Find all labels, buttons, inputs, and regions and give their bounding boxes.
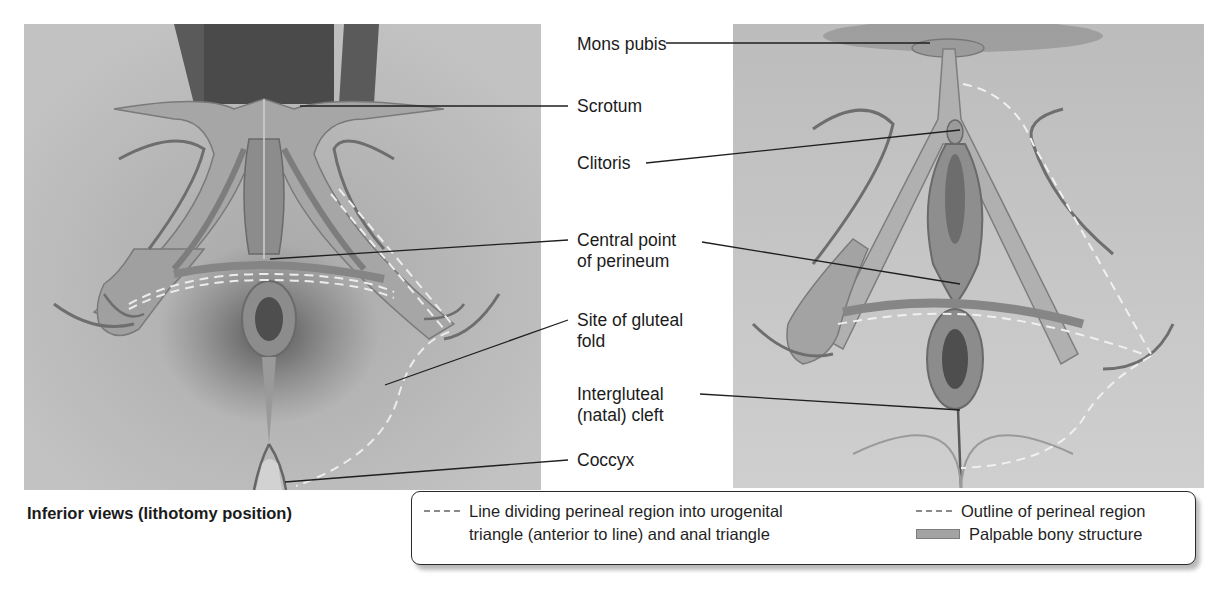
legend-item-dividing-line: Line dividing perineal region into uroge… xyxy=(424,501,783,521)
label-intergluteal-line2: (natal) cleft xyxy=(577,405,664,425)
label-mons-pubis: Mons pubis xyxy=(577,34,667,54)
male-anatomy-drawing xyxy=(24,24,541,490)
label-clitoris: Clitoris xyxy=(577,153,630,173)
clitoris-structure xyxy=(947,120,963,144)
legend-dividing-line-text2: triangle (anterior to line) and anal tri… xyxy=(469,524,770,544)
legend-item-bony: Palpable bony structure xyxy=(916,524,1142,544)
male-perineum-illustration xyxy=(24,24,541,490)
legend-bony-text: Palpable bony structure xyxy=(969,525,1142,543)
female-anatomy-drawing xyxy=(733,24,1204,488)
figure-caption: Inferior views (lithotomy position) xyxy=(27,504,292,523)
label-coccyx: Coccyx xyxy=(577,450,634,470)
bony-structure-swatch-icon xyxy=(916,529,960,539)
label-central-point-line1: Central point xyxy=(577,230,676,250)
female-perineum-illustration xyxy=(733,24,1204,488)
label-central-point-line2: of perineum xyxy=(577,251,669,271)
legend-item-outline: Outline of perineal region xyxy=(916,501,1145,521)
legend-dividing-line-text1: Line dividing perineal region into uroge… xyxy=(469,502,783,520)
label-gluteal-fold-line1: Site of gluteal xyxy=(577,310,683,330)
label-gluteal-fold-line2: fold xyxy=(577,331,605,351)
label-intergluteal-line1: Intergluteal xyxy=(577,384,664,404)
dashed-line-key-icon xyxy=(424,510,460,512)
anus xyxy=(942,329,968,389)
dashed-outline-key-icon xyxy=(916,510,952,512)
thigh-shadow-right xyxy=(339,24,379,104)
label-scrotum: Scrotum xyxy=(577,96,642,116)
legend-box: Line dividing perineal region into uroge… xyxy=(411,491,1196,565)
legend-outline-text: Outline of perineal region xyxy=(961,502,1145,520)
vestibule xyxy=(945,154,965,244)
scrotum-shadow xyxy=(204,24,334,104)
anus xyxy=(255,297,283,341)
